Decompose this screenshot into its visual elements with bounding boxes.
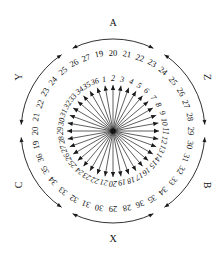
ray-arrowhead [104, 171, 108, 176]
ray-arrowhead [153, 136, 158, 140]
ray-arrowhead [68, 136, 73, 140]
ray-outer-label: 29 [109, 205, 118, 214]
radial-diagram: 1234567891011121314151617181920212223242… [0, 0, 222, 260]
ray-arrowhead [132, 165, 136, 170]
ray-arrowhead [151, 143, 156, 147]
ray-inner-label: 30 [57, 117, 66, 126]
ray-arrowhead [70, 143, 75, 147]
ray-arrowhead [118, 171, 122, 176]
ray-inner-label: 12 [160, 135, 169, 144]
ray-arrowhead [132, 91, 136, 96]
center-hub [110, 128, 115, 133]
ray-inner-label: 19 [117, 178, 126, 187]
ray-outer-label: 21 [31, 113, 41, 123]
ray-arrowhead [104, 86, 108, 91]
group-arc-arrowhead [20, 120, 24, 125]
ray-arrowhead [97, 88, 101, 93]
ray-arrowhead [111, 172, 115, 177]
group-label-x: X [109, 234, 116, 244]
ray-arrowhead [73, 150, 78, 154]
ray-arrowhead [147, 150, 152, 154]
ray-outer-label: 20 [31, 127, 40, 136]
ray-inner-label: 29 [57, 127, 65, 135]
ray-arrowhead [151, 115, 156, 119]
ray-outer-label: 29 [187, 127, 196, 136]
ray-arrowhead [125, 88, 129, 93]
ray-outer-label: 20 [109, 49, 118, 58]
group-arc-arrowhead [164, 203, 169, 207]
group-label-c: C [14, 182, 24, 189]
group-arc-arrowhead [57, 203, 62, 207]
ray-arrowhead [154, 129, 159, 133]
ray-inner-label: 11 [161, 127, 169, 134]
ray-inner-label: 20 [109, 179, 117, 187]
group-arc-arrowhead [20, 137, 24, 142]
ray-outer-label: 21 [122, 49, 132, 59]
ray-outer-label: 19 [95, 49, 105, 59]
group-arc-arrowhead [202, 137, 206, 142]
group-arc-arrowhead [202, 120, 206, 125]
ray-arrowhead [73, 108, 78, 112]
ray-arrowhead [153, 122, 158, 126]
ray-inner-label: 28 [57, 135, 66, 144]
group-label-y: Y [14, 73, 24, 80]
ray-arrowhead [70, 115, 75, 119]
ray-outer-label: 19 [31, 140, 41, 150]
ray-arrowhead [90, 91, 94, 96]
ray-arrowhead [90, 165, 94, 170]
ray-arrowhead [67, 129, 72, 133]
ray-inner-label: 10 [160, 117, 169, 126]
ray-arrowhead [97, 169, 101, 174]
ray-inner-label: 2 [111, 75, 115, 83]
group-arc-arrowhead [57, 55, 62, 59]
ray-arrowhead [118, 86, 122, 91]
ray-arrowhead [125, 169, 129, 174]
ray-outer-label: 28 [122, 203, 132, 213]
group-label-a: A [109, 18, 116, 28]
ray-arrowhead [68, 122, 73, 126]
group-arc-arrowhead [164, 55, 169, 59]
ray-inner-label: 21 [99, 178, 108, 187]
ray-arrowhead [147, 108, 152, 112]
ray-arrowhead [111, 85, 115, 90]
group-label-z: Z [202, 74, 212, 80]
ray-outer-label: 30 [185, 140, 195, 150]
group-arc-x [73, 214, 154, 223]
group-label-b: B [202, 182, 212, 189]
